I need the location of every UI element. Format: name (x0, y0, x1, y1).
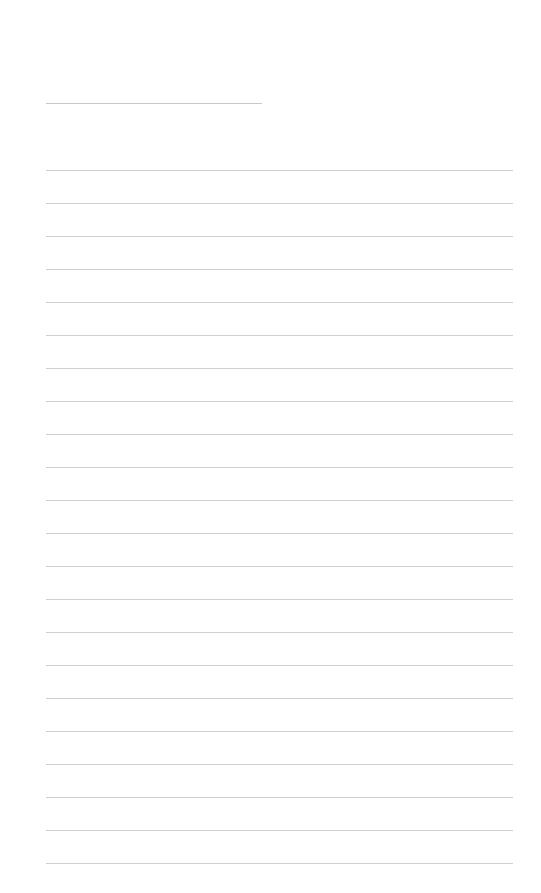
ruled-line (46, 599, 513, 600)
ruled-line (46, 401, 513, 402)
ruled-line (46, 830, 513, 831)
ruled-line (46, 302, 513, 303)
ruled-line (46, 236, 513, 237)
ruled-line (46, 731, 513, 732)
ruled-line (46, 797, 513, 798)
ruled-line (46, 368, 513, 369)
title-line (46, 103, 262, 104)
ruled-line (46, 269, 513, 270)
ruled-line (46, 170, 513, 171)
ruled-line (46, 467, 513, 468)
ruled-line (46, 533, 513, 534)
ruled-line (46, 500, 513, 501)
ruled-line (46, 434, 513, 435)
ruled-line (46, 632, 513, 633)
ruled-line (46, 203, 513, 204)
ruled-line (46, 863, 513, 864)
ruled-line (46, 335, 513, 336)
ruled-line (46, 698, 513, 699)
ruled-line (46, 764, 513, 765)
ruled-line (46, 665, 513, 666)
ruled-line (46, 566, 513, 567)
